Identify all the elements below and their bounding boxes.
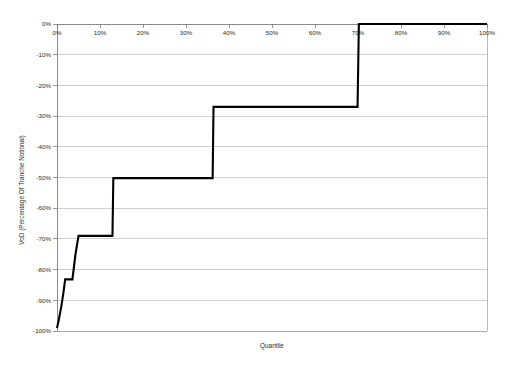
y-tick-label: -90%: [37, 297, 52, 304]
x-tick-label: 90%: [438, 29, 451, 36]
y-axis-title: VoD (Percentage Of Tranche Notional): [18, 135, 26, 244]
x-tick-label: 40%: [223, 29, 236, 36]
x-tick-label: 10%: [94, 29, 107, 36]
voD-quantile-chart: 0%10%20%30%40%50%60%70%80%90%100% 0%-10%…: [0, 0, 511, 365]
x-tick-label: 100%: [479, 29, 495, 36]
y-tick-label: -50%: [37, 174, 52, 181]
y-tick-label: -30%: [37, 112, 52, 119]
y-tick-label: -100%: [33, 327, 51, 334]
x-tick-label: 50%: [266, 29, 279, 36]
y-tick-label: 0%: [42, 20, 51, 27]
x-tick-label: 0%: [53, 29, 62, 36]
chart-container: 0%10%20%30%40%50%60%70%80%90%100% 0%-10%…: [0, 0, 511, 365]
x-axis-title: Quantile: [260, 342, 284, 350]
x-tick-label: 80%: [395, 29, 408, 36]
y-tick-label: -60%: [37, 204, 52, 211]
y-tick-label: -20%: [37, 82, 52, 89]
x-tick-label: 30%: [180, 29, 193, 36]
y-tick-label: -70%: [37, 235, 52, 242]
x-tick-label: 20%: [137, 29, 150, 36]
x-tick-label: 60%: [309, 29, 322, 36]
y-tick-label: -80%: [37, 266, 52, 273]
y-tick-label: -10%: [37, 51, 52, 58]
y-tick-label: -40%: [37, 143, 52, 150]
